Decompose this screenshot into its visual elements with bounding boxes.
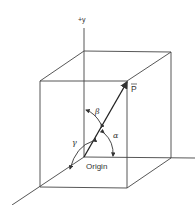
cube-edge-top-right: [127, 52, 171, 81]
vector-p: P: [84, 82, 137, 157]
gamma-label: γ: [72, 138, 77, 147]
x-axis: [84, 157, 195, 158]
origin-label: Origin: [86, 162, 107, 171]
alpha-label: α: [113, 131, 119, 140]
beta-label: β: [94, 107, 100, 116]
vector-p-label: P: [131, 84, 137, 94]
cube-edge-bottom-right: [127, 158, 171, 188]
vector-p-arrow: [84, 82, 127, 157]
z-axis: [12, 157, 84, 205]
cube-back-top-edge: [84, 51, 171, 52]
alpha-arc: [104, 133, 113, 156]
cube-edge-top-left: [40, 51, 84, 81]
direction-angles-diagram: +y P β α γ Origin: [0, 0, 195, 205]
y-axis-label: +y: [78, 16, 86, 24]
